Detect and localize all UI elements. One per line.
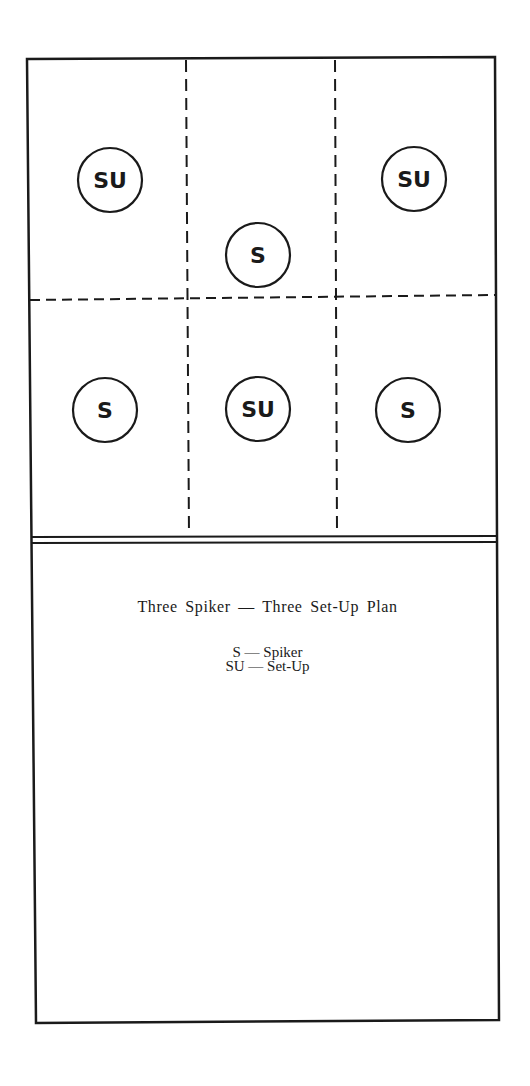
player-s-front-right: S — [376, 378, 440, 442]
player-label: S — [400, 398, 416, 423]
player-label: SU — [241, 397, 275, 422]
player-label: S — [250, 243, 266, 268]
player-s-back-center: S — [226, 223, 290, 287]
zone-divider-vertical-right — [335, 60, 337, 532]
player-label: SU — [397, 167, 431, 192]
volleyball-court-diagram: SU S SU S SU S — [0, 0, 530, 1086]
legend-item-setup: SU — Set-Up — [36, 659, 499, 673]
zone-divider-horizontal — [30, 295, 495, 300]
player-label: SU — [93, 168, 127, 193]
player-s-front-left: S — [73, 378, 137, 442]
net-line-top — [32, 536, 496, 537]
net-line-bottom — [32, 542, 496, 543]
player-su-back-left: SU — [78, 148, 142, 212]
legend-item-spiker: S — Spiker — [36, 645, 499, 659]
legend: S — Spiker SU — Set-Up — [36, 645, 499, 673]
zone-divider-vertical-left — [186, 60, 189, 535]
player-su-front-center: SU — [226, 377, 290, 441]
player-label: S — [97, 398, 113, 423]
player-su-back-right: SU — [382, 147, 446, 211]
diagram-title: Three Spiker — Three Set-Up Plan — [36, 598, 499, 616]
court-boundary — [27, 57, 499, 1023]
